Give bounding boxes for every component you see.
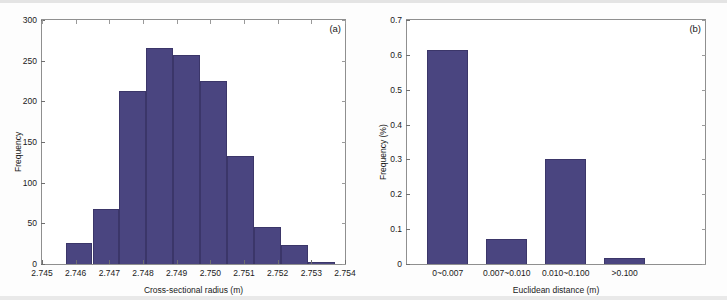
bar <box>604 258 645 264</box>
x-tick-mark-top <box>143 20 144 24</box>
x-tick-mark <box>345 260 346 264</box>
x-tick-mark <box>311 260 312 264</box>
panel-b: (b) 00.10.20.30.40.50.60.7 0~0.0070.007~… <box>364 0 727 300</box>
y-tick-label: 0.4 <box>390 120 402 130</box>
x-tick-label: 0.007~0.010 <box>483 268 531 278</box>
y-tick-mark-right <box>342 223 346 224</box>
y-tick-mark <box>406 55 410 56</box>
bar <box>486 239 527 264</box>
y-tick-mark-right <box>342 183 346 184</box>
bar <box>545 159 586 264</box>
y-tick-mark <box>406 125 410 126</box>
x-tick-mark <box>143 260 144 264</box>
x-tick-mark <box>42 260 43 264</box>
x-tick-mark-top <box>109 20 110 24</box>
x-tick-label: 2.753 <box>301 268 322 278</box>
y-axis-title-b: Frequency (%) <box>378 124 388 180</box>
x-tick-label: 2.747 <box>99 268 120 278</box>
y-tick-mark-right <box>702 264 706 265</box>
y-tick-mark-right <box>702 229 706 230</box>
x-tick-mark-top <box>244 20 245 24</box>
x-tick-mark-top <box>278 20 279 24</box>
y-tick-label: 150 <box>23 137 37 147</box>
x-tick-label: 2.745 <box>31 268 52 278</box>
x-tick-mark-top <box>42 20 43 24</box>
figure-canvas: (a) 050100150200250300 2.7452.7462.7472.… <box>0 0 727 300</box>
y-tick-label: 0.5 <box>390 85 402 95</box>
x-tick-mark <box>278 260 279 264</box>
x-tick-mark <box>109 260 110 264</box>
bar <box>146 48 173 264</box>
bar <box>66 243 93 264</box>
x-tick-label: >0.100 <box>612 268 638 278</box>
y-tick-mark-right <box>702 20 706 21</box>
y-tick-mark <box>406 159 410 160</box>
x-tick-label: 2.749 <box>166 268 187 278</box>
x-tick-mark-top <box>177 20 178 24</box>
x-tick-label: 2.750 <box>200 268 221 278</box>
y-tick-mark <box>406 90 410 91</box>
x-tick-label: 2.752 <box>267 268 288 278</box>
histogram-bars-a <box>42 20 345 264</box>
x-tick-mark <box>177 260 178 264</box>
bar <box>254 227 281 264</box>
x-tick-mark <box>210 260 211 264</box>
y-tick-label: 0.6 <box>390 50 402 60</box>
x-axis-title-b: Euclidean distance (m) <box>406 285 706 295</box>
y-tick-mark-right <box>342 264 346 265</box>
y-tick-mark-right <box>702 194 706 195</box>
y-tick-mark <box>41 101 45 102</box>
y-tick-label: 300 <box>23 15 37 25</box>
x-tick-label: 2.748 <box>132 268 153 278</box>
y-tick-mark-right <box>342 101 346 102</box>
y-tick-label: 0.1 <box>390 224 402 234</box>
y-tick-mark <box>41 61 45 62</box>
bar <box>281 245 308 264</box>
y-tick-mark-right <box>702 55 706 56</box>
x-tick-label: 0.010~0.100 <box>542 268 590 278</box>
x-tick-mark-top <box>311 20 312 24</box>
y-tick-label: 200 <box>23 96 37 106</box>
y-tick-mark-right <box>342 142 346 143</box>
y-axis-title-a: Frequency <box>13 132 23 172</box>
y-tick-mark <box>41 183 45 184</box>
plot-area-b: (b) <box>406 19 706 265</box>
plot-area-a: (a) <box>41 19 346 265</box>
panel-a: (a) 050100150200250300 2.7452.7462.7472.… <box>0 0 364 300</box>
x-tick-label: 2.754 <box>334 268 355 278</box>
bar <box>119 91 146 264</box>
bar <box>427 50 468 264</box>
x-axis-title-a: Cross-sectional radius (m) <box>41 285 346 295</box>
y-tick-mark <box>41 223 45 224</box>
y-tick-label: 50 <box>28 218 37 228</box>
y-tick-label: 250 <box>23 56 37 66</box>
x-tick-label: 0~0.007 <box>432 268 463 278</box>
x-tick-label: 2.751 <box>233 268 254 278</box>
x-tick-mark <box>244 260 245 264</box>
bar <box>93 209 120 264</box>
y-tick-label: 0.2 <box>390 189 402 199</box>
y-tick-mark-right <box>702 159 706 160</box>
bar <box>173 55 200 264</box>
x-tick-mark-top <box>76 20 77 24</box>
y-tick-mark <box>406 194 410 195</box>
y-tick-mark-right <box>342 61 346 62</box>
bar <box>227 156 254 264</box>
y-tick-mark-right <box>702 125 706 126</box>
bar-series-b <box>407 20 705 264</box>
y-tick-mark <box>41 264 45 265</box>
y-tick-mark-right <box>702 90 706 91</box>
bar <box>200 81 227 264</box>
y-tick-label: 0.3 <box>390 154 402 164</box>
y-tick-label: 0.7 <box>390 15 402 25</box>
y-tick-mark <box>406 20 410 21</box>
y-tick-label: 100 <box>23 178 37 188</box>
x-tick-mark-top <box>210 20 211 24</box>
y-tick-mark <box>406 264 410 265</box>
x-tick-mark <box>76 260 77 264</box>
x-tick-label: 2.746 <box>65 268 86 278</box>
y-tick-mark <box>406 229 410 230</box>
y-tick-label: 0 <box>397 259 402 269</box>
x-tick-mark-top <box>345 20 346 24</box>
y-tick-mark <box>41 142 45 143</box>
